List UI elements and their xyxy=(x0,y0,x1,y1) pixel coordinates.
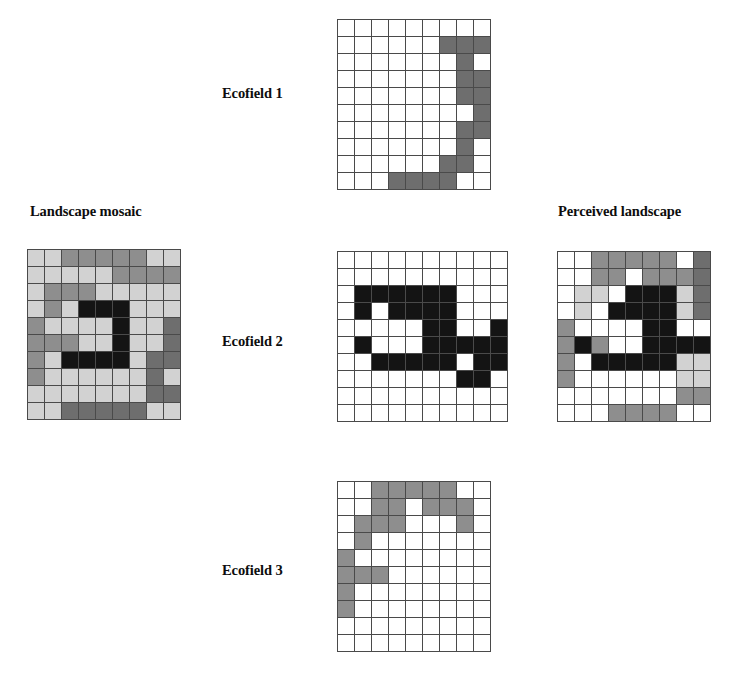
cell-white xyxy=(575,371,591,387)
cell-dark-gray xyxy=(457,54,473,70)
cell-white xyxy=(457,584,473,600)
cell-white xyxy=(338,122,354,138)
cell-light-gray xyxy=(677,354,693,370)
cell-white xyxy=(338,37,354,53)
cell-white xyxy=(474,139,490,155)
cell-light-gray xyxy=(113,386,129,402)
cell-black xyxy=(406,286,422,302)
cell-light-gray xyxy=(45,318,61,334)
cell-black xyxy=(440,286,456,302)
cell-dark-gray xyxy=(474,71,490,87)
cell-white xyxy=(423,105,439,121)
cell-white xyxy=(389,320,405,336)
cell-light-gray xyxy=(164,250,180,266)
cell-white xyxy=(389,618,405,634)
cell-white xyxy=(423,584,439,600)
cell-white xyxy=(474,550,490,566)
cell-white xyxy=(338,173,354,189)
cell-white xyxy=(592,371,608,387)
cell-light-gray xyxy=(164,403,180,419)
cell-white xyxy=(389,122,405,138)
cell-white xyxy=(355,122,371,138)
cell-white xyxy=(474,635,490,651)
cell-white xyxy=(389,156,405,172)
cell-black xyxy=(79,352,95,368)
cell-black xyxy=(355,303,371,319)
cell-black xyxy=(62,352,78,368)
cell-light-gray xyxy=(130,301,146,317)
cell-white xyxy=(338,516,354,532)
cell-dark-gray xyxy=(474,37,490,53)
cell-white xyxy=(474,388,490,404)
cell-medium-gray xyxy=(338,550,354,566)
cell-white xyxy=(406,156,422,172)
cell-white xyxy=(440,635,456,651)
cell-white xyxy=(338,635,354,651)
cell-white xyxy=(355,354,371,370)
cell-white xyxy=(457,269,473,285)
cell-light-gray xyxy=(62,318,78,334)
cell-white xyxy=(694,320,710,336)
cell-white xyxy=(389,54,405,70)
cell-white xyxy=(406,37,422,53)
cell-black xyxy=(660,286,676,302)
cell-light-gray xyxy=(62,369,78,385)
cell-white xyxy=(575,269,591,285)
cell-white xyxy=(423,269,439,285)
cell-white xyxy=(457,405,473,421)
cell-white xyxy=(406,499,422,515)
cell-white xyxy=(457,567,473,583)
cell-medium-gray xyxy=(62,284,78,300)
cell-white xyxy=(440,269,456,285)
cell-black xyxy=(406,354,422,370)
cell-light-gray xyxy=(164,369,180,385)
cell-light-gray xyxy=(592,286,608,302)
cell-white xyxy=(457,482,473,498)
cell-white xyxy=(406,252,422,268)
cell-medium-gray xyxy=(457,516,473,532)
cell-white xyxy=(474,482,490,498)
cell-white xyxy=(474,499,490,515)
cell-white xyxy=(474,286,490,302)
cell-white xyxy=(457,550,473,566)
cell-white xyxy=(389,71,405,87)
cell-black xyxy=(372,286,388,302)
cell-white xyxy=(389,584,405,600)
cell-light-gray xyxy=(62,301,78,317)
cell-white xyxy=(457,601,473,617)
cell-white xyxy=(609,320,625,336)
cell-white xyxy=(372,550,388,566)
cell-white xyxy=(457,388,473,404)
cell-black xyxy=(457,371,473,387)
cell-medium-gray xyxy=(609,405,625,421)
cell-dark-gray xyxy=(440,37,456,53)
cell-medium-gray xyxy=(372,482,388,498)
cell-black xyxy=(609,354,625,370)
cell-white xyxy=(406,88,422,104)
cell-black xyxy=(609,303,625,319)
cell-black xyxy=(643,303,659,319)
cell-dark-gray xyxy=(147,386,163,402)
cell-white xyxy=(677,320,693,336)
cell-dark-gray xyxy=(130,403,146,419)
cell-medium-gray xyxy=(609,252,625,268)
cell-white xyxy=(474,156,490,172)
cell-dark-gray xyxy=(164,386,180,402)
cell-medium-gray xyxy=(558,354,574,370)
cell-white xyxy=(355,635,371,651)
cell-white xyxy=(372,371,388,387)
cell-white xyxy=(338,482,354,498)
cell-white xyxy=(440,516,456,532)
cell-white xyxy=(372,618,388,634)
cell-white xyxy=(592,388,608,404)
cell-white xyxy=(372,303,388,319)
cell-white xyxy=(457,105,473,121)
cell-medium-gray xyxy=(113,267,129,283)
cell-medium-gray xyxy=(113,250,129,266)
cell-white xyxy=(423,37,439,53)
cell-medium-gray xyxy=(643,405,659,421)
cell-white xyxy=(338,156,354,172)
cell-white xyxy=(440,388,456,404)
cell-white xyxy=(575,320,591,336)
grid-ecofield-1 xyxy=(337,19,491,190)
